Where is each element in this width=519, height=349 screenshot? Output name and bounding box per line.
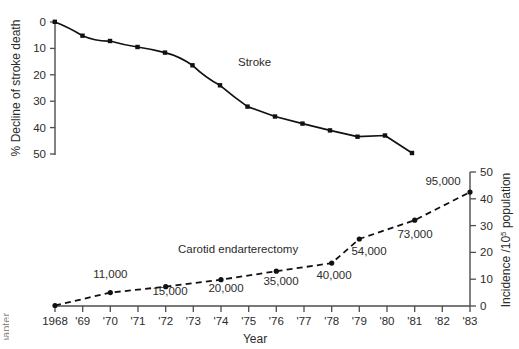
xtick-label-1977: '77 (297, 315, 312, 327)
top-panel: 0 10 20 30 40 50 % Decline of stroke dea… (9, 16, 414, 160)
data-label-11000: 11,000 (93, 268, 127, 280)
xtick-label-1976: '76 (269, 315, 284, 327)
xtick-label-1968: 1968 (42, 315, 68, 327)
data-label-73000: 73,000 (397, 228, 432, 240)
xtick-label-1979: '79 (352, 315, 367, 327)
xtick-label-1975: '75 (241, 315, 256, 327)
xtick-label-1973: '73 (186, 315, 201, 327)
xtick-label-1980: '80 (380, 315, 395, 327)
xtick-label-1974: '74 (214, 315, 230, 327)
figure-container: Chapter 0 10 20 30 40 50 % Declin (0, 0, 519, 349)
chart-canvas: 0 10 20 30 40 50 % Decline of stroke dea… (0, 0, 519, 349)
right-ytick-label-50: 50 (480, 166, 493, 178)
data-label-20000: 20,000 (208, 282, 243, 294)
xtick-label-1970: '70 (103, 315, 118, 327)
xtick-label-1981: '81 (407, 315, 422, 327)
data-label-40000: 40,000 (316, 269, 351, 281)
top-panel-y-ticks (50, 22, 55, 154)
stroke-series-markers (53, 20, 415, 156)
right-ytick-label-10: 10 (480, 273, 493, 285)
data-label-54000: 54,000 (351, 245, 386, 257)
right-ytick-label-30: 30 (480, 220, 493, 232)
x-axis-title: Year (243, 332, 267, 346)
right-y-axis-title-pre: Incidence /10 (499, 236, 513, 308)
top-ytick-label-0: 0 (40, 16, 46, 28)
data-label-35000: 35,000 (263, 275, 298, 287)
bottom-panel: 1968 '69 '70 '71 '72 '73 '74 '75 '76 '77… (42, 166, 513, 346)
xtick-label-1971: '71 (131, 315, 146, 327)
right-y-axis-title: Incidence /105 population (499, 173, 513, 308)
right-ytick-label-0: 0 (480, 300, 486, 312)
x-axis-ticks (55, 306, 470, 312)
stroke-series-annotation: Stroke (238, 56, 271, 68)
left-y-axis-title: % Decline of stroke death (9, 20, 23, 157)
carotid-series-annotation: Carotid endarterectomy (178, 243, 298, 255)
top-ytick-label-30: 30 (33, 95, 46, 107)
right-y-axis-title-post: population (499, 173, 513, 232)
xtick-label-1969: '69 (75, 315, 90, 327)
right-ytick-label-40: 40 (480, 193, 493, 205)
top-ytick-label-50: 50 (33, 148, 46, 160)
data-label-15000: 15,000 (152, 285, 187, 297)
xtick-label-1972: '72 (158, 315, 173, 327)
top-ytick-label-40: 40 (33, 122, 46, 134)
top-ytick-label-20: 20 (33, 69, 46, 81)
xtick-label-1978: '78 (324, 315, 339, 327)
right-ytick-label-20: 20 (480, 246, 493, 258)
data-label-95000: 95,000 (425, 175, 460, 187)
xtick-label-1983: '83 (463, 315, 478, 327)
xtick-label-1982: '82 (435, 315, 450, 327)
top-ytick-label-10: 10 (33, 42, 46, 54)
